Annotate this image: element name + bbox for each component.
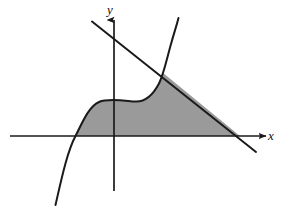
x-axis-label: x <box>267 128 274 143</box>
y-axis-label: y <box>105 2 113 17</box>
math-figure: y x <box>0 0 285 209</box>
figure-container: y x <box>0 0 285 209</box>
shaded-area <box>76 73 241 137</box>
